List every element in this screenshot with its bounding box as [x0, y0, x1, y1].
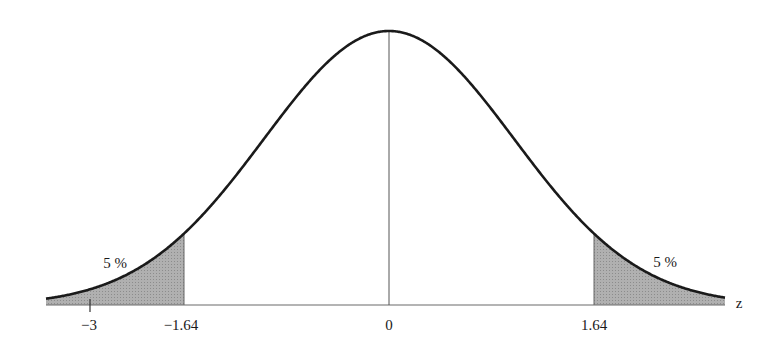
right-tail-annotation: 5 %: [653, 254, 677, 271]
tick-label-neg1-64: −1.64: [164, 317, 199, 334]
normal-distribution-chart: [0, 0, 779, 352]
tick-label-0: 0: [385, 317, 393, 334]
tick-label-1-64: 1.64: [581, 317, 607, 334]
axis-label-z: z: [736, 295, 743, 312]
left-tail-annotation: 5 %: [103, 255, 127, 272]
tick-label-neg3: −3: [81, 317, 97, 334]
density-curve: [46, 31, 725, 299]
